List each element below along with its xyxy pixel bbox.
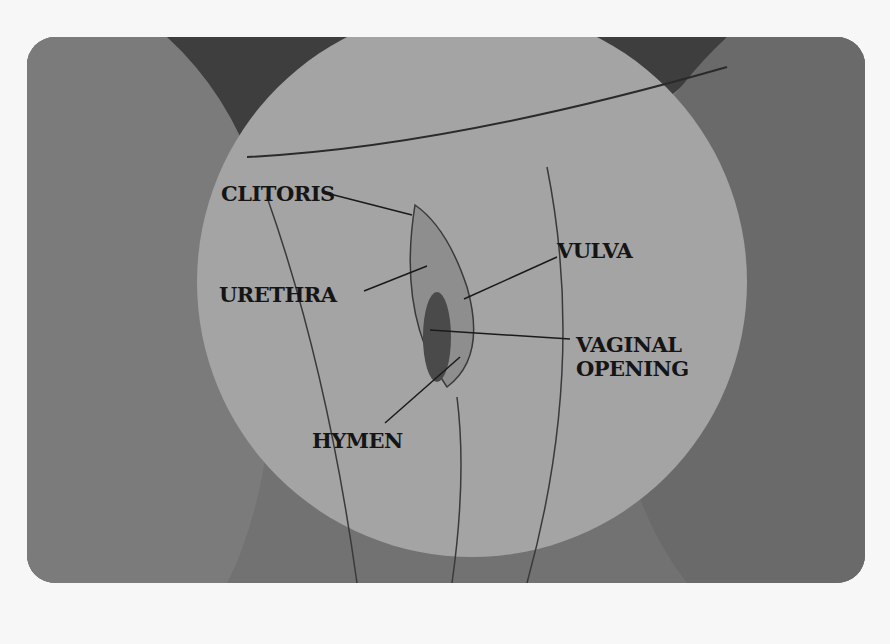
label-hymen: HYMEN — [312, 430, 403, 451]
label-vaginal-opening-line2: OPENING — [576, 358, 689, 379]
illustration-frame — [27, 37, 865, 583]
illustration-graphic — [27, 37, 865, 583]
label-urethra: URETHRA — [219, 284, 337, 305]
label-vulva: VULVA — [557, 240, 632, 261]
label-clitoris: CLITORIS — [221, 183, 335, 204]
label-vaginal-opening-line1: VAGINAL — [576, 334, 681, 355]
